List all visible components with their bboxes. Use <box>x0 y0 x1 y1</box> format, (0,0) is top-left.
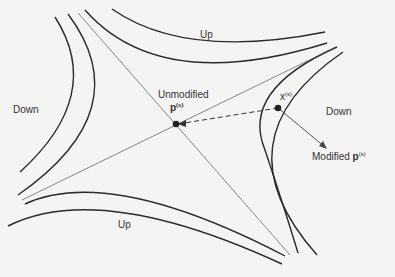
asymptote-1 <box>78 13 290 255</box>
saddle-diagram: Up Up Down Down Unmodified p(s) x(s) Mod… <box>0 0 395 277</box>
region-label-down-right: Down <box>326 106 352 117</box>
x-superscript: (s) <box>285 91 292 97</box>
hyperbola-bottom-outer <box>8 210 282 264</box>
region-label-up-top: Up <box>200 29 213 40</box>
hyperbola-left-outer <box>20 17 74 172</box>
region-label-up-bottom: Up <box>118 219 131 230</box>
modified-p-superscript: (s) <box>359 151 366 157</box>
region-label-down-left: Down <box>13 104 39 115</box>
modification-arrow <box>278 108 325 147</box>
point-x <box>275 105 282 112</box>
p-superscript: (s) <box>176 102 183 108</box>
modified-p-label: Modified p(s) <box>312 151 366 162</box>
hyperbola-bottom-inner <box>25 192 285 256</box>
point-p-unmodified <box>173 121 180 128</box>
hyperbola-top-outer <box>112 9 325 42</box>
p-label: p(s) <box>170 102 183 113</box>
x-label: x(s) <box>280 91 292 102</box>
unmodified-label: Unmodified <box>158 89 209 100</box>
diagram-canvas <box>0 0 395 277</box>
modified-label: Modified <box>312 151 350 162</box>
modification-arrowhead <box>319 141 327 149</box>
